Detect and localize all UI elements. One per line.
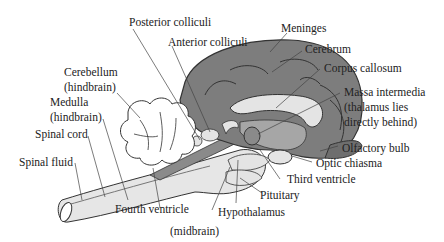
label-cerebrum: Cerebrum bbox=[305, 43, 351, 56]
label-meninges: Meninges bbox=[281, 22, 326, 35]
cerebellum-shape bbox=[121, 98, 196, 165]
label-massa-intermedia: Massa intermedia bbox=[344, 86, 425, 99]
label-medulla-note: (hindbrain) bbox=[50, 111, 102, 124]
colliculi-shape bbox=[201, 129, 219, 141]
optic-chiasma-shape bbox=[268, 150, 292, 164]
label-massa-intermedia-note1: (thalamus lies bbox=[344, 101, 408, 114]
massa-intermedia-shape bbox=[244, 127, 260, 145]
brain-diagram: Posterior colliculi Anterior colliculi M… bbox=[0, 0, 444, 242]
label-hypothalamus: Hypothalamus bbox=[218, 206, 285, 219]
label-posterior-colliculi: Posterior colliculi bbox=[129, 16, 211, 29]
label-anterior-colliculi: Anterior colliculi bbox=[168, 36, 248, 49]
label-olfactory-bulb: Olfactory bulb bbox=[342, 142, 409, 155]
label-spinal-cord: Spinal cord bbox=[35, 128, 88, 141]
label-fourth-ventricle: Fourth ventricle bbox=[115, 203, 189, 216]
label-pituitary: Pituitary bbox=[260, 189, 300, 202]
label-spinal-fluid: Spinal fluid bbox=[19, 156, 73, 169]
label-medulla: Medulla bbox=[50, 96, 88, 109]
label-massa-intermedia-note2: directly behind) bbox=[344, 116, 417, 129]
label-midbrain: (midbrain) bbox=[170, 225, 219, 238]
label-optic-chiasma: Optic chiasma bbox=[316, 157, 382, 170]
label-third-ventricle: Third ventricle bbox=[287, 173, 356, 186]
label-corpus-callosum: Corpus callosum bbox=[324, 62, 402, 75]
label-cerebellum: Cerebellum bbox=[64, 66, 118, 79]
label-cerebellum-note: (hindbrain) bbox=[64, 81, 116, 94]
